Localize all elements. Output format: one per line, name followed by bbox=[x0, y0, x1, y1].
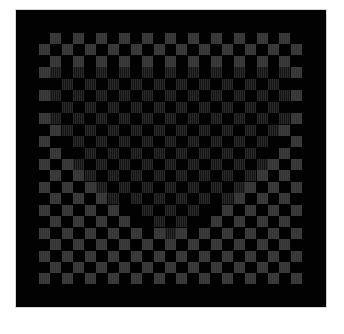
heart-square bbox=[188, 182, 199, 193]
checker-square bbox=[279, 262, 290, 273]
heart-square bbox=[188, 136, 199, 147]
heart-square bbox=[257, 67, 268, 78]
checker-square bbox=[96, 56, 107, 67]
heart-square bbox=[85, 79, 96, 90]
heart-square bbox=[154, 216, 165, 227]
checker-square bbox=[291, 205, 302, 216]
heart-square bbox=[50, 113, 61, 124]
checker-square bbox=[73, 170, 84, 181]
heart-square bbox=[96, 136, 107, 147]
checker-square bbox=[39, 90, 50, 101]
heart-square bbox=[268, 102, 279, 113]
heart-square bbox=[131, 102, 142, 113]
heart-square bbox=[222, 170, 233, 181]
checker-square bbox=[291, 113, 302, 124]
illusion-frame bbox=[16, 10, 326, 307]
heart-square bbox=[119, 182, 130, 193]
checker-square bbox=[119, 216, 130, 227]
checker-square bbox=[108, 44, 119, 55]
heart-square bbox=[188, 67, 199, 78]
heart-square bbox=[108, 125, 119, 136]
heart-square bbox=[108, 79, 119, 90]
checker-square bbox=[279, 170, 290, 181]
heart-square bbox=[199, 148, 210, 159]
checker-square bbox=[73, 216, 84, 227]
heart-square bbox=[176, 79, 187, 90]
heart-square bbox=[131, 193, 142, 204]
checker-square bbox=[108, 251, 119, 262]
heart-square bbox=[154, 125, 165, 136]
checker-square bbox=[268, 205, 279, 216]
heart-square bbox=[96, 182, 107, 193]
checker-square bbox=[39, 67, 50, 78]
heart-square bbox=[142, 205, 153, 216]
heart-square bbox=[211, 136, 222, 147]
heart-square bbox=[176, 102, 187, 113]
heart-square bbox=[119, 159, 130, 170]
checker-square bbox=[142, 33, 153, 44]
heart-square bbox=[222, 102, 233, 113]
checker-square bbox=[73, 56, 84, 67]
checker-square bbox=[39, 159, 50, 170]
heart-square bbox=[154, 148, 165, 159]
heart-square bbox=[188, 90, 199, 101]
checker-square bbox=[50, 216, 61, 227]
checker-square bbox=[199, 44, 210, 55]
checker-square bbox=[119, 56, 130, 67]
heart-square bbox=[165, 228, 176, 239]
heart-square bbox=[73, 113, 84, 124]
checker-square bbox=[234, 216, 245, 227]
heart-square bbox=[211, 113, 222, 124]
checker-square bbox=[154, 44, 165, 55]
checker-square bbox=[131, 273, 142, 284]
checker-square bbox=[50, 262, 61, 273]
checker-square bbox=[39, 205, 50, 216]
checker-square bbox=[165, 262, 176, 273]
checker-square bbox=[142, 56, 153, 67]
heart-square bbox=[234, 182, 245, 193]
heart-square bbox=[257, 136, 268, 147]
heart-square bbox=[50, 90, 61, 101]
checker-square bbox=[154, 273, 165, 284]
checker-square bbox=[176, 273, 187, 284]
heart-square bbox=[85, 102, 96, 113]
checker-square bbox=[279, 216, 290, 227]
checker-square bbox=[176, 228, 187, 239]
checker-square bbox=[245, 273, 256, 284]
heart-square bbox=[165, 67, 176, 78]
heart-square bbox=[199, 193, 210, 204]
heart-square bbox=[119, 67, 130, 78]
checker-square bbox=[268, 159, 279, 170]
checker-square bbox=[85, 228, 96, 239]
checker-square bbox=[222, 273, 233, 284]
checker-square bbox=[73, 239, 84, 250]
checker-square bbox=[279, 148, 290, 159]
checker-square bbox=[96, 239, 107, 250]
checker-square bbox=[142, 262, 153, 273]
checker-square bbox=[199, 273, 210, 284]
checker-square bbox=[268, 44, 279, 55]
heart-square bbox=[142, 113, 153, 124]
checker-square bbox=[85, 44, 96, 55]
checker-square bbox=[211, 56, 222, 67]
checker-square bbox=[257, 33, 268, 44]
checker-square bbox=[62, 159, 73, 170]
heart-square bbox=[50, 67, 61, 78]
heart-square bbox=[245, 79, 256, 90]
heart-square bbox=[222, 148, 233, 159]
checker-square bbox=[291, 273, 302, 284]
heart-square bbox=[245, 148, 256, 159]
heart-square bbox=[165, 136, 176, 147]
checker-square bbox=[222, 251, 233, 262]
heart-square bbox=[165, 159, 176, 170]
checker-square bbox=[234, 33, 245, 44]
heart-square bbox=[268, 125, 279, 136]
checker-square bbox=[131, 251, 142, 262]
checker-square bbox=[222, 44, 233, 55]
checker-square bbox=[176, 44, 187, 55]
heart-square bbox=[199, 102, 210, 113]
heart-square bbox=[165, 205, 176, 216]
heart-square bbox=[279, 90, 290, 101]
checker-square bbox=[188, 262, 199, 273]
heart-square bbox=[131, 125, 142, 136]
